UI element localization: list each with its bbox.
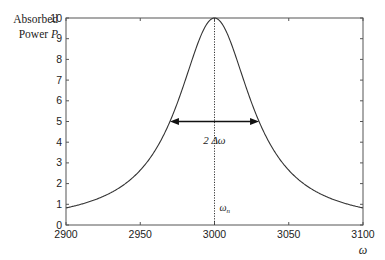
y-tick-label: 3: [56, 156, 62, 168]
y-tick-label: 2: [56, 177, 62, 189]
x-tick-label: 3050: [277, 228, 301, 240]
x-tick-label: 3100: [351, 228, 375, 240]
x-tick-label: 2900: [54, 228, 78, 240]
y-tick-label: 10: [50, 12, 62, 24]
x-tick-label: 2950: [129, 228, 153, 240]
width-label: 2 Δω: [203, 134, 226, 146]
y-tick-label: 6: [56, 94, 62, 106]
resonance-label: ωn: [220, 202, 231, 215]
y-tick-label: 5: [56, 115, 62, 127]
y-tick-label: 7: [56, 74, 62, 86]
y-tick-label: 1: [56, 198, 62, 210]
annotations: ωn2 Δω: [170, 18, 259, 225]
absorption-chart: 01234567891029002950300030503100ω ωn2 Δω: [0, 0, 385, 260]
y-tick-label: 9: [56, 32, 62, 44]
x-axis-label: ω: [359, 243, 367, 257]
x-tick-label: 3000: [203, 228, 227, 240]
y-tick-label: 8: [56, 53, 62, 65]
y-tick-label: 4: [56, 136, 62, 148]
